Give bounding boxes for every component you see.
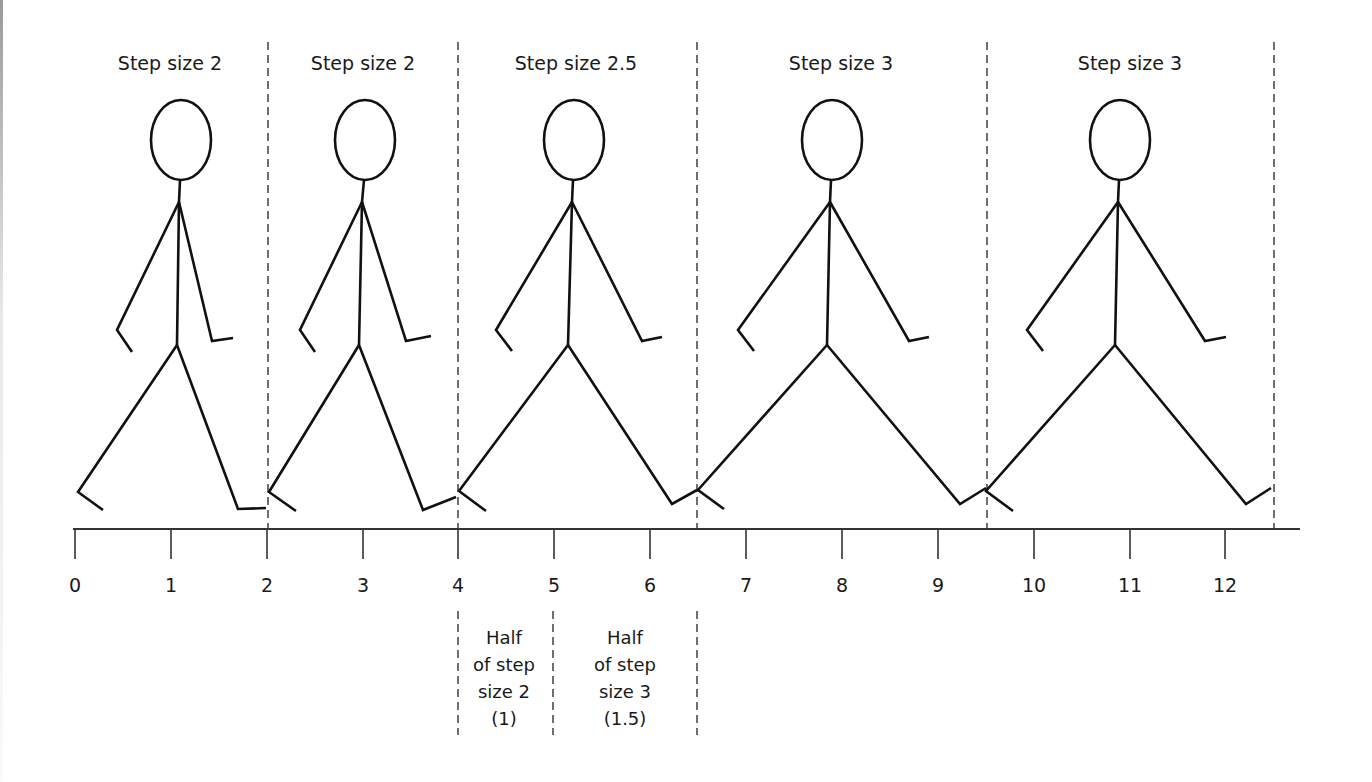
annotation-1-line-1: Half xyxy=(486,627,523,648)
tick-label-4: 4 xyxy=(452,574,464,596)
annotation-2-line-3: size 3 xyxy=(599,681,651,702)
annotation-1-line-3: size 2 xyxy=(478,681,530,702)
stick-figure-5 xyxy=(986,100,1271,511)
tick-label-1: 1 xyxy=(165,574,177,596)
axis-ticks xyxy=(75,529,1225,559)
annotation-2-line-1: Half xyxy=(607,627,644,648)
stick-figure-4 xyxy=(698,100,986,509)
axis-tick-labels: 0 1 2 3 4 5 6 7 8 9 10 11 12 xyxy=(69,574,1237,596)
tick-label-11: 11 xyxy=(1118,574,1142,596)
step-size-diagram: Step size 2 Step size 2 Step size 2.5 St… xyxy=(0,0,1372,782)
step-label-2: Step size 2 xyxy=(311,52,415,74)
annotation-2-line-4: (1.5) xyxy=(604,708,647,729)
tick-label-10: 10 xyxy=(1022,574,1046,596)
step-label-4: Step size 3 xyxy=(789,52,893,74)
step-label-5: Step size 3 xyxy=(1078,52,1182,74)
step-label-3: Step size 2.5 xyxy=(515,52,637,74)
stick-figure-3 xyxy=(459,100,697,511)
tick-label-9: 9 xyxy=(932,574,944,596)
tick-label-7: 7 xyxy=(740,574,752,596)
tick-label-6: 6 xyxy=(644,574,656,596)
tick-label-5: 5 xyxy=(548,574,560,596)
annotation-half-step-2: Half of step size 2 (1) xyxy=(473,627,535,729)
stick-figure-1 xyxy=(78,100,266,510)
tick-label-12: 12 xyxy=(1213,574,1237,596)
annotation-1-line-4: (1) xyxy=(491,708,517,729)
annotation-half-step-3: Half of step size 3 (1.5) xyxy=(594,627,656,729)
step-label-1: Step size 2 xyxy=(118,52,222,74)
tick-label-8: 8 xyxy=(836,574,848,596)
tick-label-2: 2 xyxy=(261,574,273,596)
tick-label-0: 0 xyxy=(69,574,81,596)
annotation-1-line-2: of step xyxy=(473,654,535,675)
tick-label-3: 3 xyxy=(357,574,369,596)
stick-figure-2 xyxy=(269,100,456,511)
annotation-2-line-2: of step xyxy=(594,654,656,675)
